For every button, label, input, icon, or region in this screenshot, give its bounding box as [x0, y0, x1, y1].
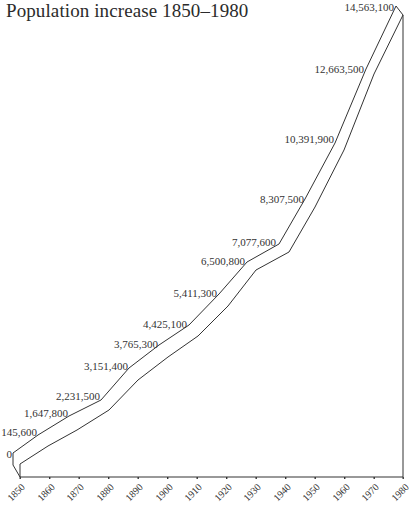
value-label-1970: 12,663,500	[315, 63, 365, 75]
ribbon-left-edge	[13, 465, 20, 477]
value-label-1920: 5,411,300	[173, 287, 217, 299]
value-label-1930: 6,500,800	[201, 255, 245, 267]
value-label-1910: 4,425,100	[143, 318, 187, 330]
value-label-1980: 14,563,100	[345, 1, 395, 13]
value-label-1870: 1,647,800	[24, 407, 68, 419]
value-label-1900: 3,765,300	[114, 338, 158, 350]
value-label-1890: 3,151,400	[84, 360, 128, 372]
ribbon-back-line	[20, 15, 403, 477]
value-label-1860: 145,600	[1, 426, 37, 438]
value-label-1850: 0	[7, 448, 13, 460]
value-label-1960: 10,391,900	[285, 133, 335, 145]
value-label-1880: 2,231,500	[56, 390, 100, 402]
value-label-1940: 7,077,600	[232, 236, 276, 248]
value-label-1950: 8,307,500	[260, 193, 304, 205]
